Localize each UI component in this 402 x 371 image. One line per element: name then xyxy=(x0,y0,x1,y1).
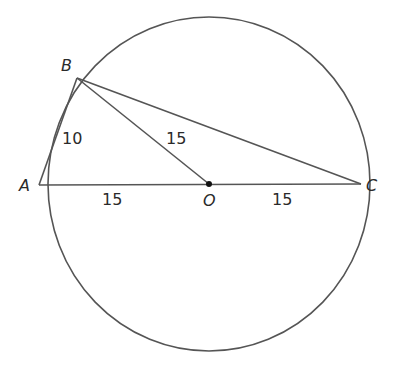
length-label-ao: 15 xyxy=(102,190,122,209)
segment-bc xyxy=(77,78,361,184)
center-point-o xyxy=(206,181,212,187)
point-label-o: O xyxy=(203,191,216,210)
circle-diagram: A B C O 10 15 15 15 xyxy=(0,0,402,371)
diameter-ac xyxy=(39,184,361,185)
length-label-oc: 15 xyxy=(272,190,292,209)
length-label-bo: 15 xyxy=(166,129,186,148)
point-label-c: C xyxy=(366,176,378,195)
point-label-a: A xyxy=(18,176,30,195)
length-label-ab: 10 xyxy=(62,129,82,148)
point-label-b: B xyxy=(61,56,72,75)
segment-bo xyxy=(77,78,209,184)
